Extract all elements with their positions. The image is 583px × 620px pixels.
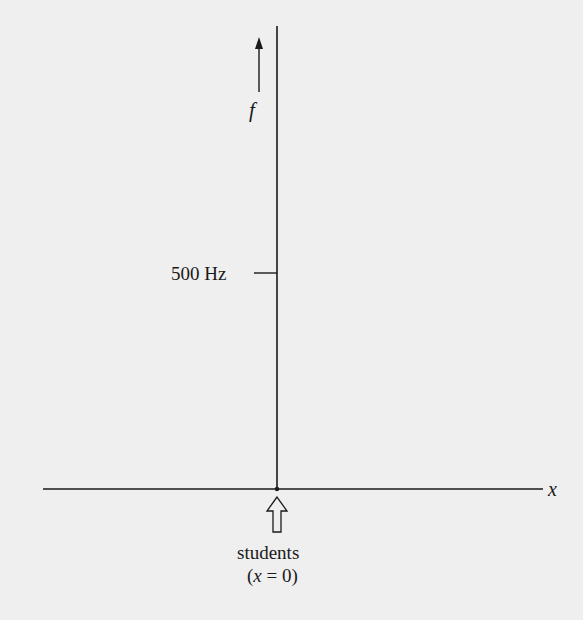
origin-dot: [275, 487, 279, 491]
origin-caption-var: x: [253, 565, 261, 586]
f-axis-label: f: [249, 100, 255, 121]
tick-label-500hz: 500 Hz: [171, 264, 226, 283]
origin-caption: (x = 0): [247, 566, 298, 585]
x-axis-label: x: [548, 479, 557, 499]
origin-caption-rest: = 0): [262, 565, 298, 586]
axes-diagram: [0, 0, 583, 620]
hollow-up-arrow-icon: [267, 497, 287, 532]
up-arrow-icon: [255, 37, 263, 92]
students-caption: students: [237, 543, 299, 562]
